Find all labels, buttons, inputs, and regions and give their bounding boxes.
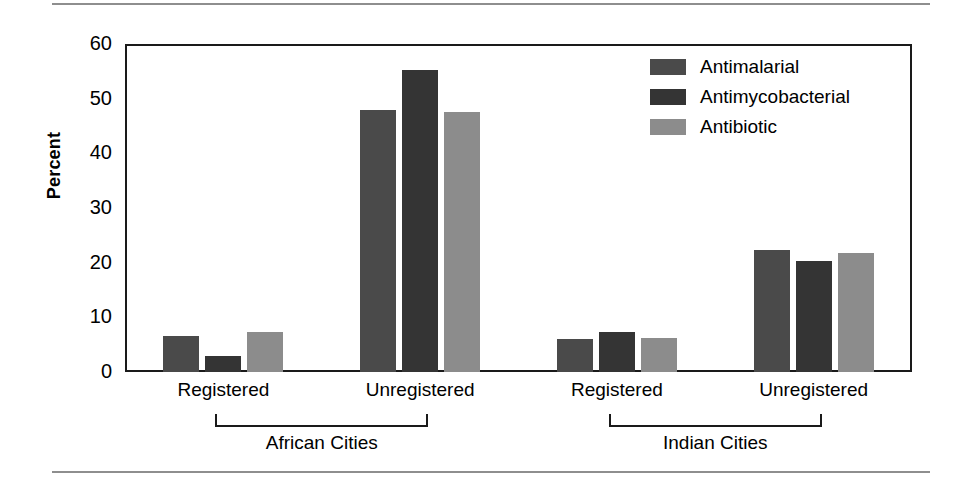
bar xyxy=(163,336,199,372)
legend-item: Antibiotic xyxy=(650,112,850,142)
legend-label: Antimalarial xyxy=(700,56,799,78)
figure: Percent 0102030405060 RegisteredUnregist… xyxy=(0,0,966,489)
x-axis-category-label: Unregistered xyxy=(320,379,520,401)
x-axis-category-label: Registered xyxy=(517,379,717,401)
legend-label: Antimycobacterial xyxy=(700,86,850,108)
y-axis-tick-label: 50 xyxy=(66,88,112,108)
y-axis-tick-label: 10 xyxy=(66,306,112,326)
x-axis-category-label: Registered xyxy=(123,379,323,401)
region-bracket xyxy=(215,414,428,427)
x-axis-category-label: Unregistered xyxy=(714,379,914,401)
bottom-divider-rule xyxy=(52,471,930,473)
bar xyxy=(557,339,593,372)
legend-item: Antimycobacterial xyxy=(650,82,850,112)
bar xyxy=(796,261,832,372)
y-axis-tick-label: 40 xyxy=(66,142,112,162)
y-axis-tick-label: 0 xyxy=(66,361,112,381)
bar xyxy=(838,253,874,372)
bar xyxy=(754,250,790,372)
y-axis-tick-label: 20 xyxy=(66,252,112,272)
bar xyxy=(360,110,396,372)
bar xyxy=(205,356,241,372)
bar xyxy=(599,332,635,372)
region-label: African Cities xyxy=(182,432,462,454)
bar xyxy=(247,332,283,372)
legend-swatch xyxy=(650,119,686,135)
legend-item: Antimalarial xyxy=(650,52,850,82)
legend: AntimalarialAntimycobacterialAntibiotic xyxy=(650,52,850,142)
top-divider-rule xyxy=(52,3,930,5)
bar xyxy=(641,338,677,372)
region-bracket xyxy=(609,414,822,427)
legend-label: Antibiotic xyxy=(700,116,777,138)
y-axis-tick-label: 60 xyxy=(66,33,112,53)
legend-swatch xyxy=(650,59,686,75)
bar xyxy=(444,112,480,372)
region-label: Indian Cities xyxy=(575,432,855,454)
y-axis-title: Percent xyxy=(44,86,65,246)
y-axis-tick-label: 30 xyxy=(66,197,112,217)
bar xyxy=(402,70,438,372)
legend-swatch xyxy=(650,89,686,105)
